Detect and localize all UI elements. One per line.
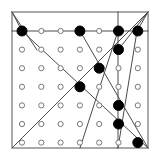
open-lattice-dot [97, 84, 102, 89]
open-lattice-dot [77, 47, 82, 52]
open-lattice-dot [97, 121, 102, 126]
open-lattice-dot [39, 140, 44, 145]
open-lattice-dot [135, 121, 140, 126]
open-lattice-dot [39, 84, 44, 89]
open-lattice-dot [58, 140, 63, 145]
open-lattice-dot [116, 140, 121, 145]
open-lattice-dot [77, 66, 82, 71]
filled-lattice-dot [94, 63, 104, 73]
open-lattice-dot [19, 121, 24, 126]
open-lattice-dot [97, 28, 102, 33]
open-lattice-dot [77, 140, 82, 145]
open-lattice-dot [97, 47, 102, 52]
open-lattice-dot [19, 47, 24, 52]
filled-lattice-dot [114, 100, 124, 110]
open-lattice-dot [39, 47, 44, 52]
open-lattice-dot [39, 103, 44, 108]
filled-lattice-dot [114, 45, 124, 55]
open-lattice-dot [135, 84, 140, 89]
open-lattice-dot [97, 103, 102, 108]
filled-lattice-dot [75, 82, 85, 92]
open-lattice-dot [39, 121, 44, 126]
open-lattice-dot [39, 66, 44, 71]
open-lattice-dot [58, 47, 63, 52]
filled-lattice-dot [133, 138, 143, 148]
open-lattice-dot [58, 121, 63, 126]
open-lattice-dot [58, 84, 63, 89]
open-lattice-dot [19, 66, 24, 71]
open-lattice-dot [116, 84, 121, 89]
open-lattice-dot [19, 103, 24, 108]
open-lattice-dot [135, 66, 140, 71]
open-lattice-dot [116, 66, 121, 71]
open-lattice-dot [77, 121, 82, 126]
open-lattice-dot [135, 103, 140, 108]
filled-lattice-dot [75, 26, 85, 36]
open-lattice-dot [58, 66, 63, 71]
lattice-canvas [0, 0, 160, 167]
open-lattice-dot [19, 84, 24, 89]
filled-lattice-dot [133, 26, 143, 36]
open-lattice-dot [19, 140, 24, 145]
open-lattice-dot [97, 140, 102, 145]
dot-lattice-figure [0, 0, 160, 167]
filled-lattice-dot [17, 26, 27, 36]
filled-lattice-dot [114, 26, 124, 36]
open-lattice-dot [58, 103, 63, 108]
open-lattice-dot [77, 103, 82, 108]
open-lattice-dot [58, 28, 63, 33]
open-lattice-dot [39, 28, 44, 33]
open-lattice-dot [135, 47, 140, 52]
filled-lattice-dot [114, 119, 124, 129]
